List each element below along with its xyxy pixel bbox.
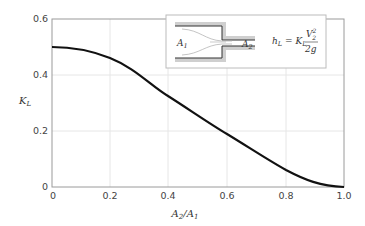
inset-diagram: A1 A2 hL = KL V22 2g: [166, 15, 326, 68]
chart: 0.6 0.4 0.2 0 0 0.2 0.4 0.6 0.8 1.0 KL A…: [0, 0, 365, 226]
equation-denominator: 2g: [304, 44, 317, 54]
x-tick-0.8: 0.8: [278, 190, 293, 201]
x-axis-label: A2/A1: [171, 208, 199, 221]
x-tick-0.6: 0.6: [219, 190, 234, 201]
equation-numerator: V22: [306, 27, 317, 41]
y-tick-0: 0: [42, 181, 48, 192]
x-tick-1.0: 1.0: [336, 190, 351, 201]
y-ticks: 0.6 0.4 0.2 0: [33, 13, 48, 192]
x-ticks: 0 0.2 0.4 0.6 0.8 1.0: [50, 190, 352, 201]
y-tick-0.4: 0.4: [33, 69, 48, 80]
y-tick-0.6: 0.6: [33, 13, 48, 24]
x-tick-0.2: 0.2: [102, 190, 117, 201]
x-tick-0: 0: [50, 190, 56, 201]
y-tick-0.2: 0.2: [33, 125, 48, 136]
x-tick-0.4: 0.4: [160, 190, 175, 201]
y-axis-label: KL: [18, 95, 31, 108]
